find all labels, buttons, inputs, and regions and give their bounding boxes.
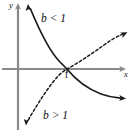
- curve-label-b-less-than-one: b < 1: [41, 13, 66, 25]
- y-axis-label: y: [9, 1, 13, 10]
- exponential-function-figure: b < 1 b > 1 x y 1: [0, 0, 132, 136]
- curve-label-b-greater-than-one: b > 1: [43, 110, 68, 122]
- curve-b-greater-than-one-arrowhead-bottom: [24, 119, 30, 126]
- tick-label-one: 1: [64, 71, 69, 80]
- x-axis-label: x: [124, 70, 128, 79]
